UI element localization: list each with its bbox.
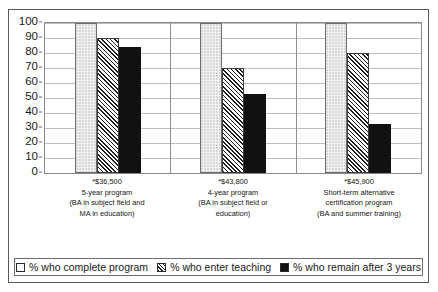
y-axis-tick-label: 80 [25, 46, 38, 58]
bar-remain-group-1 [119, 47, 141, 173]
y-axis-tick-label: 10 [25, 151, 38, 163]
y-axis-tick-mark [39, 112, 42, 113]
y-axis-tick-mark [39, 82, 42, 83]
category-label-line: *$36,500 [46, 177, 168, 188]
category-label-line: (BA in subject field or [172, 198, 294, 209]
y-axis-tick-mark [39, 37, 42, 38]
chart-legend: % who complete program% who enter teachi… [14, 258, 423, 276]
y-axis: 0102030405060708090100 [8, 22, 42, 174]
legend-label: % who enter teaching [170, 262, 271, 273]
y-axis-tick-label: 20 [25, 136, 38, 148]
bar-complete-group-1 [75, 23, 97, 173]
category-separator [296, 23, 297, 173]
y-axis-tick-label: 90 [25, 31, 38, 43]
y-axis-tick-mark [39, 157, 42, 158]
bar-remain-group-3 [369, 124, 391, 174]
bar-enter-group-1 [97, 38, 119, 173]
y-axis-tick-mark [39, 22, 42, 23]
category-label-line: *$45,900 [298, 177, 420, 188]
y-axis-tick-mark [39, 172, 42, 173]
legend-swatch-remain-icon [280, 263, 289, 272]
category-label-line: Short-term alternative [298, 188, 420, 199]
legend-item-enter[interactable]: % who enter teaching [157, 262, 271, 273]
y-axis-tick-mark [39, 97, 42, 98]
category-label-line: (BA and summer training) [298, 209, 420, 220]
y-axis-tick-label: 70 [25, 61, 38, 73]
bar-remain-group-2 [244, 94, 266, 174]
y-axis-tick-mark [39, 52, 42, 53]
legend-label: % who remain after 3 years [293, 262, 421, 273]
category-axis-labels: *$36,5005-year program(BA in subject fie… [44, 177, 422, 239]
legend-swatch-complete-icon [16, 263, 25, 272]
legend-item-remain[interactable]: % who remain after 3 years [280, 262, 421, 273]
category-separator [170, 23, 171, 173]
y-axis-tick-mark [39, 127, 42, 128]
legend-label: % who complete program [29, 262, 148, 273]
y-axis-tick-label: 40 [25, 106, 38, 118]
category-label-line: 4-year program [172, 188, 294, 199]
category-label-3: *$45,900Short-term alternativecertificat… [296, 177, 422, 239]
plot-area [44, 22, 422, 174]
gridline [45, 23, 421, 24]
category-label-line: *$43,800 [172, 177, 294, 188]
legend-item-complete[interactable]: % who complete program [16, 262, 148, 273]
bar-complete-group-3 [325, 23, 347, 173]
y-axis-tick-label: 60 [25, 76, 38, 88]
category-label-2: *$43,8004-year program(BA in subject fie… [170, 177, 296, 239]
bar-enter-group-2 [222, 68, 244, 173]
category-label-1: *$36,5005-year program(BA in subject fie… [44, 177, 170, 239]
category-label-line: education) [172, 209, 294, 220]
chart-container: 0102030405060708090100 *$36,5005-year pr… [0, 0, 438, 292]
y-axis-tick-label: 30 [25, 121, 38, 133]
legend-swatch-enter-icon [157, 263, 166, 272]
category-label-line: certification program [298, 198, 420, 209]
category-label-line: MA in education) [46, 209, 168, 220]
y-axis-tick-label: 0 [32, 166, 38, 178]
y-axis-tick-mark [39, 67, 42, 68]
category-label-line: 5-year program [46, 188, 168, 199]
bar-enter-group-3 [347, 53, 369, 173]
y-axis-tick-label: 100 [19, 16, 38, 28]
y-axis-tick-label: 50 [25, 91, 38, 103]
y-axis-tick-mark [39, 142, 42, 143]
category-label-line: (BA in subject field and [46, 198, 168, 209]
bar-complete-group-2 [200, 23, 222, 173]
